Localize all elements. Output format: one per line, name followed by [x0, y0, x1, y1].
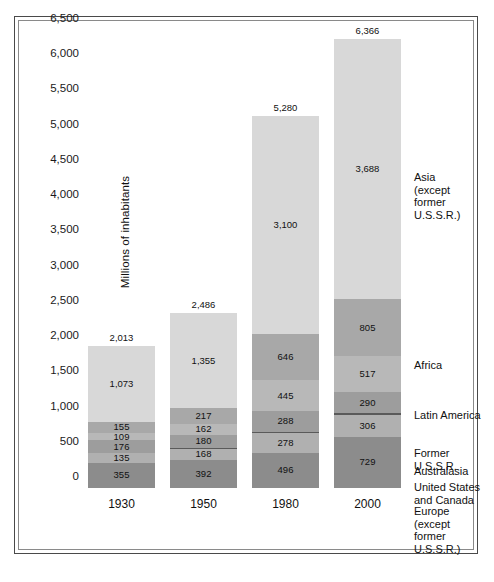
- bar-segment-value: 517: [334, 369, 401, 379]
- legend-entry: Latin America: [414, 409, 481, 422]
- bar-segment-value: 278: [252, 438, 319, 448]
- bar-segment-value: 445: [252, 391, 319, 401]
- y-axis-tick-label: 3,500: [33, 223, 79, 235]
- y-axis-tick-label: 2,500: [33, 294, 79, 306]
- y-axis-tick-label: 2,000: [33, 329, 79, 341]
- bar-segment[interactable]: 278: [252, 433, 319, 453]
- chart-page: Millions of inhabitants 05001,0001,5002,…: [0, 0, 494, 582]
- bar-segment-value: 306: [334, 421, 401, 431]
- stacked-bar[interactable]: 1,0731551091761353552,0131930: [88, 346, 155, 488]
- y-axis-tick-label: 3,000: [33, 259, 79, 271]
- bar-group-1950: 1,3552171621801683922,4861950: [170, 313, 237, 488]
- bar-segment[interactable]: 109: [88, 433, 155, 441]
- bar-segment-value: 217: [170, 411, 237, 421]
- bar-segment[interactable]: 517: [334, 356, 401, 392]
- y-axis-tick-label: 1,500: [33, 364, 79, 376]
- bar-segment[interactable]: 135: [88, 453, 155, 463]
- bar-group-2000: 3,6888055172903067296,3662000: [334, 39, 401, 488]
- stacked-bar[interactable]: 3,6888055172903067296,3662000: [334, 39, 401, 488]
- bar-segment[interactable]: 176: [88, 440, 155, 452]
- bar-segment[interactable]: 805: [334, 299, 401, 356]
- bar-segment-value: 135: [88, 453, 155, 463]
- bar-segment-value: 180: [170, 437, 237, 447]
- bar-segment-value: 392: [170, 469, 237, 479]
- bar-total-label: 2,486: [170, 299, 237, 310]
- bar-segment-value: 3,100: [252, 220, 319, 230]
- bar-segment[interactable]: 180: [170, 435, 237, 448]
- bar-group-1930: 1,0731551091761353552,0131930: [88, 346, 155, 488]
- bar-segment[interactable]: 168: [170, 449, 237, 461]
- bar-group-1980: 3,1006464452882784965,2801980: [252, 116, 319, 488]
- bar-segment-value: 729: [334, 458, 401, 468]
- y-axis-tick-label: 5,500: [33, 82, 79, 94]
- bar-total-label: 5,280: [252, 102, 319, 113]
- y-axis-title: Millions of inhabitants: [119, 137, 131, 327]
- bar-segment-value: 646: [252, 352, 319, 362]
- bar-segment-value: 168: [170, 450, 237, 460]
- y-axis-tick-label: 6,000: [33, 47, 79, 59]
- bar-segment[interactable]: 1,355: [170, 313, 237, 408]
- bar-segment[interactable]: 355: [88, 463, 155, 488]
- bar-segment[interactable]: 445: [252, 380, 319, 411]
- y-axis-tick-label: 5,000: [33, 118, 79, 130]
- stacked-bar[interactable]: 3,1006464452882784965,2801980: [252, 116, 319, 488]
- bar-segment[interactable]: 729: [334, 437, 401, 488]
- y-axis-tick-label: 500: [33, 435, 79, 447]
- bar-segment[interactable]: 290: [334, 392, 401, 412]
- bar-segment-value: 290: [334, 398, 401, 408]
- bar-segment[interactable]: 646: [252, 334, 319, 380]
- bar-segment-value: 355: [88, 471, 155, 481]
- bar-segment-value: 1,355: [170, 356, 237, 366]
- bar-segment-value: 3,688: [334, 165, 401, 175]
- bar-total-label: 6,366: [334, 25, 401, 36]
- bar-segment-value: 176: [88, 442, 155, 452]
- bar-segment-value: 162: [170, 425, 237, 435]
- x-axis-tick-label: 1980: [240, 497, 331, 511]
- bar-segment[interactable]: 496: [252, 453, 319, 488]
- legend-entry: Europe (except former U.S.S.R.): [414, 505, 460, 555]
- legend-entry: Asia (except former U.S.S.R.): [414, 171, 460, 221]
- bar-segment-value: 288: [252, 417, 319, 427]
- bar-segment[interactable]: 288: [252, 411, 319, 431]
- y-axis-tick-label: 6,500: [33, 12, 79, 24]
- legend-entry: Australasia: [414, 465, 468, 478]
- bar-segment-value: 1,073: [88, 379, 155, 389]
- legend-entry: United States and Canada: [414, 481, 480, 506]
- bar-segment-value: 805: [334, 323, 401, 333]
- y-axis-tick-label: 0: [33, 470, 79, 482]
- legend-entry: Africa: [414, 359, 442, 372]
- plot-area: Millions of inhabitants 05001,0001,5002,…: [88, 30, 408, 518]
- bar-segment[interactable]: 217: [170, 408, 237, 423]
- y-axis-tick-label: 4,000: [33, 188, 79, 200]
- bar-segment[interactable]: 162: [170, 424, 237, 435]
- x-axis-tick-label: 2000: [322, 497, 413, 511]
- x-axis-tick-label: 1950: [158, 497, 249, 511]
- bar-segment[interactable]: 1,073: [88, 346, 155, 422]
- bar-total-label: 2,013: [88, 332, 155, 343]
- y-axis-tick-label: 4,500: [33, 153, 79, 165]
- stacked-bar[interactable]: 1,3552171621801683922,4861950: [170, 313, 237, 488]
- bar-segment[interactable]: 306: [334, 415, 401, 437]
- y-axis-tick-label: 1,000: [33, 400, 79, 412]
- bar-segment[interactable]: 3,100: [252, 116, 319, 334]
- bar-segment[interactable]: 392: [170, 460, 237, 488]
- bar-segment[interactable]: 3,688: [334, 39, 401, 299]
- bar-segment-value: 496: [252, 465, 319, 475]
- x-axis-tick-label: 1930: [76, 497, 167, 511]
